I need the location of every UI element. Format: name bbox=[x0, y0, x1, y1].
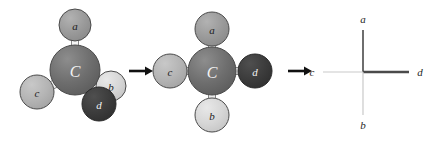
atom-c-cross: c bbox=[153, 54, 187, 88]
arrow-1 bbox=[129, 67, 153, 76]
atom-d-3d: d bbox=[82, 87, 116, 121]
atom-d-cross-label: d bbox=[252, 66, 258, 78]
projection-label-b: b bbox=[360, 119, 366, 131]
atom-carbon-cross: C bbox=[188, 47, 236, 95]
atom-carbon-3d: C bbox=[50, 45, 100, 95]
atom-carbon-3d-label: C bbox=[70, 63, 81, 80]
projection-label-d: d bbox=[417, 66, 423, 78]
atom-c-3d: c bbox=[20, 75, 54, 109]
structure-cross-ball-and-stick: a b c d C bbox=[153, 12, 272, 132]
arrow-2 bbox=[288, 67, 312, 76]
atom-b-cross-label: b bbox=[209, 110, 215, 122]
atom-carbon-cross-label: C bbox=[207, 64, 218, 81]
projection-label-a: a bbox=[360, 13, 366, 25]
atom-a-cross-label: a bbox=[209, 24, 215, 36]
atom-a-cross: a bbox=[195, 12, 229, 46]
atom-a-3d-label: a bbox=[72, 20, 78, 32]
chemistry-figure: b a c C d bbox=[0, 0, 434, 141]
atom-d-cross: d bbox=[238, 54, 272, 88]
figure-canvas: b a c C d bbox=[0, 0, 434, 141]
atom-b-cross: b bbox=[195, 98, 229, 132]
projection-label-c: c bbox=[310, 66, 315, 78]
atom-d-3d-label: d bbox=[96, 99, 102, 111]
structure-line-projection: a d c b bbox=[310, 13, 424, 131]
atom-a-3d: a bbox=[59, 9, 91, 41]
structure-tetrahedral-3d: b a c C d bbox=[20, 9, 126, 121]
atom-c-cross-label: c bbox=[168, 66, 173, 78]
atom-c-3d-label: c bbox=[35, 87, 40, 99]
